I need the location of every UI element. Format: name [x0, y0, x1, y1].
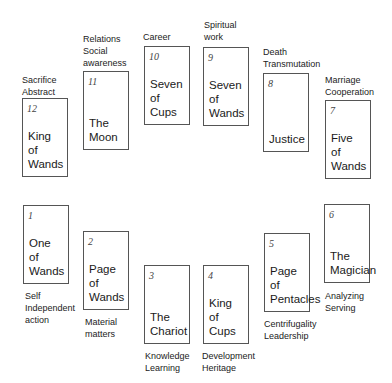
house-number: 4 — [208, 270, 213, 281]
card-name: The Moon — [89, 116, 118, 144]
tarot-card: 4 King of Cups — [203, 265, 249, 344]
house-meaning: Centrifugality Leadership — [264, 318, 317, 342]
house-number: 10 — [149, 51, 159, 62]
house-meaning: Development Heritage — [202, 350, 255, 374]
house-number: 11 — [88, 76, 97, 87]
house-meaning: Relations Social awareness — [83, 33, 127, 69]
house-number: 6 — [329, 209, 334, 220]
tarot-card: 11 The Moon — [83, 71, 129, 150]
house-meaning: Spiritual work — [204, 19, 237, 43]
card-name: Justice — [269, 132, 305, 146]
card-name: Five of Wands — [331, 131, 366, 173]
card-name: Seven of Wands — [209, 78, 244, 120]
tarot-card: 3 The Chariot — [144, 265, 190, 344]
house-meaning: Material matters — [85, 316, 117, 340]
house-number: 8 — [268, 78, 273, 89]
house-meaning: Career — [143, 31, 171, 43]
house-number: 12 — [27, 103, 37, 114]
house-number: 9 — [208, 52, 213, 63]
house-meaning: Death Transmutation — [263, 46, 320, 70]
house-number: 7 — [330, 105, 335, 116]
tarot-card: 2 Page of Wands — [83, 231, 129, 310]
tarot-card: 12 King of Wands — [22, 98, 68, 177]
house-meaning: Analyzing Serving — [325, 290, 364, 314]
card-name: One of Wands — [29, 236, 64, 278]
tarot-card: 9 Seven of Wands — [203, 47, 249, 126]
house-number: 2 — [88, 236, 93, 247]
house-meaning: Marriage Cooperation — [325, 74, 374, 98]
house-meaning: Sacrifice Abstract — [22, 74, 57, 98]
card-name: Page of Wands — [89, 262, 124, 304]
house-number: 3 — [149, 270, 154, 281]
house-meaning: Self Independent action — [25, 290, 75, 326]
card-name: Seven of Cups — [150, 77, 183, 119]
tarot-card: 8 Justice — [263, 73, 309, 152]
house-number: 1 — [28, 210, 33, 221]
tarot-card: 7 Five of Wands — [325, 100, 371, 179]
card-name: King of Wands — [28, 129, 63, 171]
tarot-card: 1 One of Wands — [23, 205, 69, 284]
card-name: Page of Pentacles — [270, 264, 321, 306]
tarot-card: 6 The Magician — [324, 204, 370, 283]
tarot-card: 5 Page of Pentacles — [264, 233, 310, 312]
house-meaning: Knowledge Learning — [145, 350, 190, 374]
house-number: 5 — [269, 238, 274, 249]
card-name: The Magician — [330, 249, 376, 277]
card-name: King of Cups — [209, 296, 236, 338]
tarot-card: 10 Seven of Cups — [144, 46, 190, 125]
card-name: The Chariot — [150, 310, 187, 338]
